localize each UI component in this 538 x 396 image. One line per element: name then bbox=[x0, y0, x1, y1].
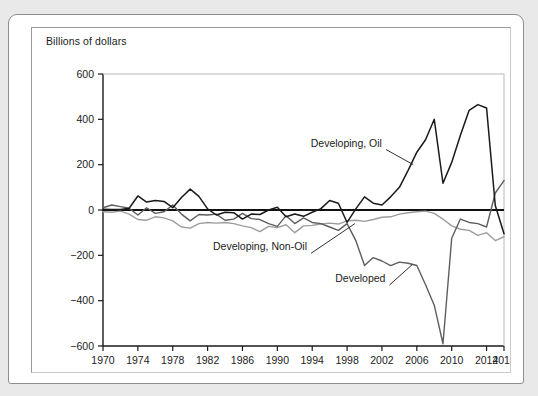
annotation-leader-line bbox=[386, 150, 413, 165]
series-line bbox=[103, 181, 504, 344]
x-tick-label: 1994 bbox=[301, 354, 325, 366]
plot-area: −600−400−2000200400600197019741978198219… bbox=[32, 28, 510, 372]
series-annotation-label: Developing, Oil bbox=[311, 137, 382, 149]
x-tick-label: 1978 bbox=[161, 354, 185, 366]
chart-card: Billions of dollars −600−400−20002004006… bbox=[31, 27, 511, 373]
y-tick-label: −400 bbox=[70, 294, 94, 306]
x-tick-label: 1998 bbox=[335, 354, 359, 366]
x-tick-label: 1974 bbox=[126, 354, 150, 366]
annotation-leader-line bbox=[389, 264, 412, 285]
x-tick-label: 2002 bbox=[370, 354, 394, 366]
x-tick-label: 2010 bbox=[440, 354, 464, 366]
line-chart: −600−400−2000200400600197019741978198219… bbox=[32, 28, 510, 372]
y-tick-label: −600 bbox=[70, 340, 94, 352]
x-tick-label: 2006 bbox=[405, 354, 429, 366]
y-tick-label: −200 bbox=[70, 249, 94, 261]
x-tick-label: 1986 bbox=[231, 354, 255, 366]
y-tick-label: 0 bbox=[88, 204, 94, 216]
page-background: Billions of dollars −600−400−20002004006… bbox=[0, 0, 538, 396]
x-tick-label: 1990 bbox=[266, 354, 290, 366]
series-annotation-label: Developed bbox=[335, 272, 385, 284]
x-tick-label: 1970 bbox=[91, 354, 115, 366]
series-annotation-label: Developing, Non-Oil bbox=[213, 240, 307, 252]
x-tick-label: 2016 bbox=[492, 354, 510, 366]
y-tick-label: 600 bbox=[76, 68, 94, 80]
y-tick-label: 400 bbox=[76, 113, 94, 125]
y-tick-label: 200 bbox=[76, 158, 94, 170]
series-line bbox=[103, 105, 504, 234]
figure-frame: Billions of dollars −600−400−20002004006… bbox=[8, 14, 524, 384]
x-tick-label: 1982 bbox=[196, 354, 220, 366]
